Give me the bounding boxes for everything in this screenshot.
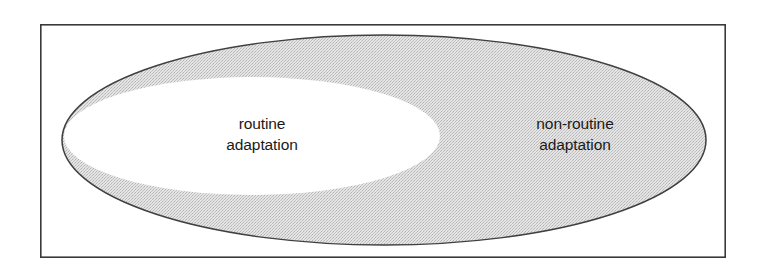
routine-label-line-1: routine bbox=[226, 113, 297, 134]
nested-ellipse-diagram bbox=[0, 0, 766, 270]
routine-label-line-2: adaptation bbox=[226, 134, 297, 155]
routine-adaptation-label: routine adaptation bbox=[226, 113, 297, 155]
figure-root: routine adaptation non-routine adaptatio… bbox=[0, 0, 766, 270]
non-routine-adaptation-label: non-routine adaptation bbox=[536, 113, 613, 155]
non-routine-label-line-1: non-routine bbox=[536, 113, 613, 134]
non-routine-label-line-2: adaptation bbox=[536, 134, 613, 155]
